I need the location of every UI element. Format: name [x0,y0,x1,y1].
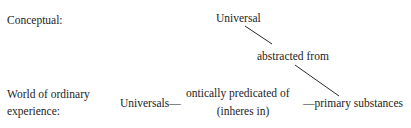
row-label-world-of-ordinary-experience: World of ordinary experience: [7,86,115,120]
relation-ontically-predicated-of: ontically predicated of [186,86,289,100]
row-label-conceptual: Conceptual: [7,13,63,27]
row-label-world-line2: experience: [7,103,115,120]
node-primary-substances: —primary substances [303,96,403,110]
node-universals: Universals— [120,96,181,110]
relation-abstracted-from: abstracted from [257,49,329,63]
edge-universal-to-abstracted [245,26,272,44]
edge-abstracted-to-primary [295,65,339,96]
node-universal: Universal [216,11,261,25]
diagram-canvas: Conceptual: World of ordinary experience… [0,0,411,128]
relation-inheres-in: (inheres in) [186,104,300,118]
row-label-world-line1: World of ordinary [7,88,90,100]
